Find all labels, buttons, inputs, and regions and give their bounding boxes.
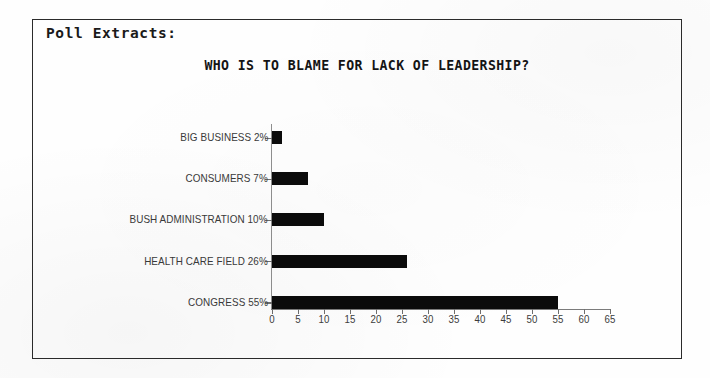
chart-title: WHO IS TO BLAME FOR LACK OF LEADERSHIP? [0, 58, 710, 73]
scanned-page: Poll Extracts: WHO IS TO BLAME FOR LACK … [0, 0, 710, 378]
poll-extracts-heading: Poll Extracts: [46, 25, 177, 41]
